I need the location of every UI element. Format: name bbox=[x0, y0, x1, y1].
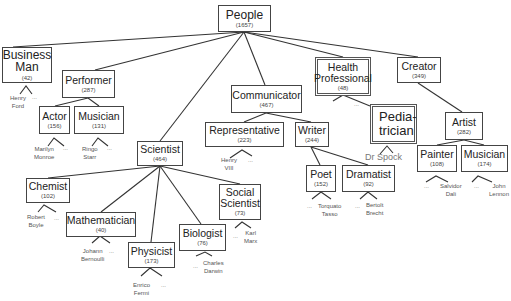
node-pediatrician-name-1: Pedia- bbox=[379, 110, 417, 124]
leaf-ringo-starr-line1: Ringo bbox=[82, 146, 98, 154]
leaf-henry-viii-line1: Henry bbox=[221, 157, 237, 165]
node-health-professional-name-2: Professional bbox=[314, 73, 372, 84]
leaf-torquato-tasso: Torquato Tasso bbox=[318, 203, 341, 218]
node-social-scientist-name-2: Scientist bbox=[220, 198, 260, 209]
node-chemist-name: Chemist bbox=[29, 181, 68, 192]
leaf-enrico-fermi: Enrico Fermi bbox=[133, 282, 150, 297]
node-performer-musician-name: Musician bbox=[78, 111, 119, 122]
leaf-torquato-tasso-line1: Torquato bbox=[318, 203, 341, 211]
node-health-professional-count: (48) bbox=[338, 85, 349, 91]
node-physicist: Physicist (173) bbox=[128, 242, 175, 268]
leaf-john-lennon-line2: Lennon bbox=[489, 191, 509, 199]
node-writer-count: (244) bbox=[305, 137, 319, 143]
leaf-robert-boyle: Robert Boyle bbox=[27, 214, 45, 229]
node-representative-count: (223) bbox=[237, 137, 251, 143]
ellipsis: ... bbox=[424, 183, 429, 189]
node-communicator: Communicator (467) bbox=[231, 85, 302, 113]
ellipsis: ... bbox=[307, 203, 312, 209]
node-chemist-count: (102) bbox=[41, 193, 55, 199]
node-artist: Artist (282) bbox=[445, 112, 483, 140]
node-artist-musician-count: (174) bbox=[477, 161, 491, 167]
node-business-man-name-2: Man bbox=[15, 61, 38, 74]
node-performer-musician: Musician (131) bbox=[74, 106, 124, 134]
node-biologist-name: Biologist bbox=[183, 228, 223, 239]
node-painter-name: Painter bbox=[420, 149, 453, 160]
leaf-henry-ford: Henry Ford bbox=[10, 95, 26, 110]
node-mathematician-name: Mathematician bbox=[67, 215, 135, 226]
node-creator: Creator (349) bbox=[397, 57, 441, 83]
node-painter-count: (108) bbox=[430, 161, 444, 167]
node-actor-count: (156) bbox=[47, 123, 61, 129]
node-health-professional: Health Professional (48) bbox=[315, 57, 371, 96]
leaf-karl-marx-line2: Marx bbox=[244, 238, 257, 246]
leaf-johann-bernoulli: Johann Bernoulli bbox=[81, 248, 104, 263]
leaf-johann-bernoulli-line1: Johann bbox=[81, 248, 104, 256]
ellipsis: ... bbox=[107, 145, 112, 151]
leaf-dr-spock: Dr Spock bbox=[365, 152, 402, 162]
node-people-name: People bbox=[226, 9, 263, 22]
node-communicator-count: (467) bbox=[259, 102, 273, 108]
node-social-scientist-count: (73) bbox=[235, 210, 246, 216]
leaf-robert-boyle-line1: Robert bbox=[27, 214, 45, 222]
node-chemist: Chemist (102) bbox=[26, 178, 70, 203]
ellipsis: ... bbox=[248, 157, 253, 163]
node-dramatist: Dramatist (92) bbox=[342, 165, 395, 192]
ellipsis: ... bbox=[54, 215, 59, 221]
node-dramatist-name: Dramatist bbox=[346, 169, 391, 180]
leaf-henry-ford-line2: Ford bbox=[10, 103, 26, 111]
node-performer-count: (287) bbox=[81, 87, 95, 93]
node-business-man: Business Man (42) bbox=[2, 47, 52, 83]
node-physicist-count: (173) bbox=[144, 258, 158, 264]
node-artist-name: Artist bbox=[452, 117, 476, 128]
node-painter: Painter (108) bbox=[417, 145, 457, 172]
node-dramatist-count: (92) bbox=[363, 181, 374, 187]
node-creator-count: (349) bbox=[412, 73, 426, 79]
ellipsis: ... bbox=[354, 101, 359, 107]
ellipsis: ... bbox=[32, 94, 37, 100]
node-actor-name: Actor bbox=[42, 111, 67, 122]
node-pediatrician: Pedia- trician bbox=[370, 104, 417, 144]
node-performer: Performer (287) bbox=[62, 70, 115, 98]
leaf-ringo-starr: Ringo Starr bbox=[82, 146, 98, 161]
leaf-ringo-starr-line2: Starr bbox=[82, 154, 98, 162]
node-poet-count: (152) bbox=[314, 181, 328, 187]
leaf-john-lennon-line1: John bbox=[489, 183, 509, 191]
leaf-marilyn-monroe-line2: Monroe bbox=[34, 154, 54, 162]
ellipsis: ... bbox=[63, 145, 68, 151]
node-mathematician-count: (40) bbox=[96, 227, 107, 233]
leaf-robert-boyle-line2: Boyle bbox=[27, 222, 45, 230]
leaf-john-lennon: John Lennon bbox=[489, 183, 509, 198]
leaf-enrico-fermi-line2: Fermi bbox=[133, 290, 150, 298]
node-people: People (1657) bbox=[218, 5, 271, 32]
leaf-salvador-dali: Salvidor Dali bbox=[440, 183, 462, 198]
node-biologist-count: (76) bbox=[197, 240, 208, 246]
node-scientist-count: (464) bbox=[153, 156, 167, 162]
node-writer-name: Writer bbox=[298, 125, 326, 136]
node-poet-name: Poet bbox=[310, 169, 332, 180]
ellipsis: ... bbox=[109, 248, 114, 254]
node-creator-name: Creator bbox=[401, 61, 436, 72]
node-biologist: Biologist (76) bbox=[179, 224, 226, 251]
ellipsis: ... bbox=[233, 233, 238, 239]
leaf-salvador-dali-line2: Dali bbox=[440, 191, 462, 199]
node-people-count: (1657) bbox=[236, 22, 253, 28]
node-social-scientist: Social Scientist (73) bbox=[219, 184, 261, 220]
leaf-charles-darwin-line1: Charles bbox=[203, 260, 224, 268]
node-scientist: Scientist (464) bbox=[137, 141, 183, 166]
leaf-bertolt-brecht-line2: Brecht bbox=[366, 210, 383, 218]
node-representative-name: Representative bbox=[209, 125, 280, 136]
node-artist-musician: Musician (174) bbox=[461, 145, 508, 172]
leaf-marilyn-monroe-line1: Marilyn bbox=[34, 146, 54, 154]
leaf-henry-ford-line1: Henry bbox=[10, 95, 26, 103]
node-artist-musician-name: Musician bbox=[464, 149, 505, 160]
leaf-torquato-tasso-line2: Tasso bbox=[318, 211, 341, 219]
node-physicist-name: Physicist bbox=[131, 246, 172, 257]
node-scientist-name: Scientist bbox=[140, 144, 180, 155]
leaf-karl-marx: Karl Marx bbox=[244, 230, 257, 245]
node-pediatrician-name-2: trician bbox=[379, 124, 414, 138]
ellipsis: ... bbox=[355, 203, 360, 209]
leaf-karl-marx-line1: Karl bbox=[244, 230, 257, 238]
node-mathematician: Mathematician (40) bbox=[66, 212, 136, 237]
leaf-charles-darwin-line2: Darwin bbox=[203, 268, 224, 276]
leaf-henry-viii: Henry VIII bbox=[221, 157, 237, 172]
